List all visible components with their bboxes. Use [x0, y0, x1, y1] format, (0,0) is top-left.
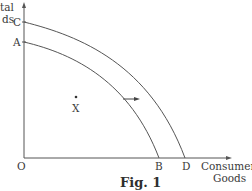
y-axis-label-line1: tal [0, 1, 14, 13]
point-x-dot [75, 96, 78, 99]
label-x: X [72, 102, 80, 114]
label-c: C [13, 16, 21, 28]
x-axis-label-line2: Goods [213, 172, 246, 184]
figure-caption: Fig. 1 [120, 175, 161, 190]
ppf-diagram: tal ds C A X O B D Consumer Goods Fig. 1 [0, 0, 252, 191]
label-b: B [155, 160, 163, 172]
label-a: A [12, 36, 21, 48]
ppf-curve-cd [24, 22, 185, 158]
ppf-curve-ab [24, 42, 159, 158]
label-origin: O [17, 160, 26, 172]
label-d: D [182, 160, 190, 172]
x-axis-label-line1: Consumer [201, 160, 252, 172]
y-axis-arrowhead-icon [22, 2, 26, 8]
shift-arrowhead-icon [134, 97, 140, 101]
